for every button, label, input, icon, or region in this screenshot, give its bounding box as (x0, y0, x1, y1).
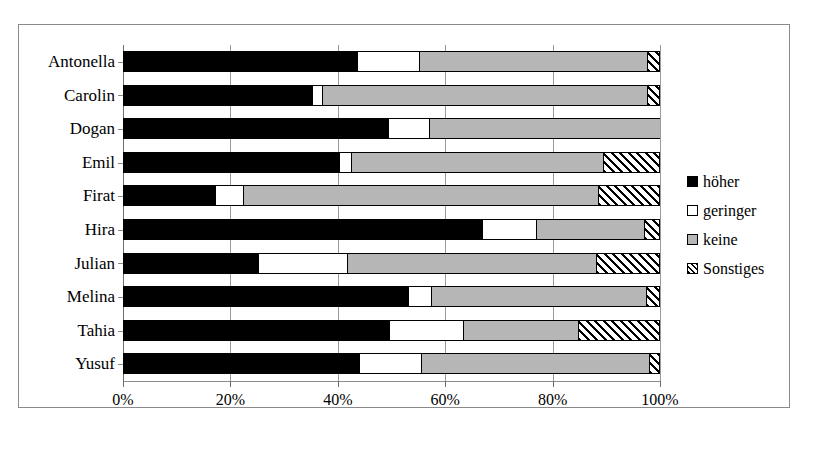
chart-row: Hira (123, 213, 660, 247)
bar-segment-sonstiges[interactable] (646, 286, 660, 307)
legend-swatch-icon (687, 263, 698, 274)
bar-segment-hoeher[interactable] (123, 253, 258, 274)
category-label: Tahia (19, 320, 115, 341)
stacked-bar[interactable] (123, 353, 660, 374)
legend-item-geringer[interactable]: geringer (687, 196, 787, 225)
bar-segment-hoeher[interactable] (123, 185, 215, 206)
category-label: Firat (19, 185, 115, 206)
category-label: Dogan (19, 118, 115, 139)
stacked-bar[interactable] (123, 286, 660, 307)
bar-segment-keine[interactable] (429, 118, 660, 139)
bar-segment-geringer[interactable] (389, 320, 463, 341)
x-axis-tick-label: 60% (431, 391, 460, 409)
category-label: Julian (19, 253, 115, 274)
chart-row: Dogan (123, 112, 660, 146)
legend-item-keine[interactable]: keine (687, 225, 787, 254)
x-axis-tick-label: 100% (641, 391, 678, 409)
category-label: Hira (19, 219, 115, 240)
bar-segment-sonstiges[interactable] (578, 320, 660, 341)
gridline (660, 45, 661, 381)
bar-segment-geringer[interactable] (388, 118, 429, 139)
legend-label: höher (703, 173, 739, 191)
chart-row: Tahia (123, 314, 660, 348)
category-label: Yusuf (19, 353, 115, 374)
bar-segment-geringer[interactable] (312, 85, 322, 106)
bar-segment-geringer[interactable] (339, 152, 351, 173)
legend-label: geringer (703, 202, 756, 220)
bar-segment-hoeher[interactable] (123, 152, 339, 173)
chart-row: Yusuf (123, 347, 660, 381)
x-axis-tick (123, 381, 124, 387)
x-axis-tick-label: 20% (216, 391, 245, 409)
chart-row: Carolin (123, 79, 660, 113)
bar-segment-hoeher[interactable] (123, 118, 388, 139)
x-axis-tick-label: 80% (538, 391, 567, 409)
bar-segment-geringer[interactable] (258, 253, 347, 274)
legend-swatch-icon (687, 234, 698, 245)
bar-segment-keine[interactable] (419, 51, 647, 72)
bar-segment-geringer[interactable] (357, 51, 419, 72)
bar-segment-hoeher[interactable] (123, 85, 312, 106)
bar-segment-keine[interactable] (322, 85, 647, 106)
legend-item-hoeher[interactable]: höher (687, 167, 787, 196)
bar-segment-sonstiges[interactable] (647, 51, 660, 72)
bar-segment-sonstiges[interactable] (644, 219, 660, 240)
chart-row: Emil (123, 146, 660, 180)
bar-segment-hoeher[interactable] (123, 320, 389, 341)
bar-segment-geringer[interactable] (215, 185, 243, 206)
bar-segment-keine[interactable] (536, 219, 643, 240)
bar-segment-hoeher[interactable] (123, 51, 357, 72)
stacked-bar[interactable] (123, 253, 660, 274)
chart-legend: höhergeringerkeineSonstiges (687, 167, 787, 283)
bar-segment-geringer[interactable] (359, 353, 421, 374)
x-axis-tick (338, 381, 339, 387)
legend-swatch-icon (687, 205, 698, 216)
bar-segment-geringer[interactable] (408, 286, 431, 307)
stacked-bar[interactable] (123, 219, 660, 240)
legend-label: keine (703, 231, 738, 249)
stacked-bar[interactable] (123, 152, 660, 173)
category-label: Melina (19, 286, 115, 307)
bar-segment-keine[interactable] (431, 286, 646, 307)
legend-label: Sonstiges (703, 260, 764, 278)
legend-item-sonstiges[interactable]: Sonstiges (687, 254, 787, 283)
bar-segment-keine[interactable] (351, 152, 603, 173)
stacked-bar[interactable] (123, 118, 660, 139)
bar-segment-sonstiges[interactable] (649, 353, 660, 374)
chart-row: Julian (123, 247, 660, 281)
bar-segment-hoeher[interactable] (123, 286, 408, 307)
x-axis-tick (230, 381, 231, 387)
bar-segment-hoeher[interactable] (123, 353, 359, 374)
stacked-bar[interactable] (123, 85, 660, 106)
bar-segment-sonstiges[interactable] (596, 253, 660, 274)
x-axis-tick (660, 381, 661, 387)
bar-segment-hoeher[interactable] (123, 219, 482, 240)
stacked-bar[interactable] (123, 185, 660, 206)
category-label: Antonella (19, 51, 115, 72)
bar-segment-keine[interactable] (463, 320, 578, 341)
stacked-bar[interactable] (123, 320, 660, 341)
chart-row: Antonella (123, 45, 660, 79)
bar-segment-keine[interactable] (243, 185, 598, 206)
x-axis-tick (445, 381, 446, 387)
x-axis-tick-label: 0% (112, 391, 133, 409)
bar-segment-sonstiges[interactable] (603, 152, 660, 173)
bar-segment-sonstiges[interactable] (598, 185, 660, 206)
category-label: Carolin (19, 85, 115, 106)
legend-swatch-icon (687, 176, 698, 187)
category-label: Emil (19, 152, 115, 173)
x-axis-line (123, 381, 661, 382)
bar-segment-keine[interactable] (347, 253, 596, 274)
chart-frame: AntonellaCarolinDoganEmilFiratHiraJulian… (18, 24, 790, 408)
bar-segment-sonstiges[interactable] (647, 85, 660, 106)
plot-area: AntonellaCarolinDoganEmilFiratHiraJulian… (123, 45, 660, 381)
x-axis-tick-label: 40% (323, 391, 352, 409)
chart-row: Firat (123, 179, 660, 213)
bar-segment-geringer[interactable] (482, 219, 536, 240)
x-axis-tick (553, 381, 554, 387)
stacked-bar[interactable] (123, 51, 660, 72)
bar-segment-keine[interactable] (421, 353, 649, 374)
chart-row: Melina (123, 280, 660, 314)
